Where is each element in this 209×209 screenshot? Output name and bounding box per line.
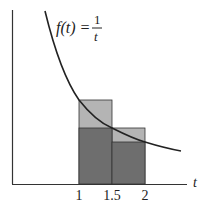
riemann-sum-diagram: f(t) = 1 t 1 1.5 2 t [0, 0, 209, 209]
tick-label-2: 2 [142, 188, 149, 203]
fraction-numerator: 1 [94, 12, 101, 27]
fraction-denominator: t [94, 29, 98, 44]
tick-label-1: 1 [76, 188, 83, 203]
lower-right-rectangle [112, 142, 145, 184]
function-label: f(t) = [56, 19, 90, 37]
x-axis-label: t [193, 175, 198, 190]
tick-label-1-5: 1.5 [103, 188, 121, 203]
lower-left-rectangle [79, 128, 112, 184]
